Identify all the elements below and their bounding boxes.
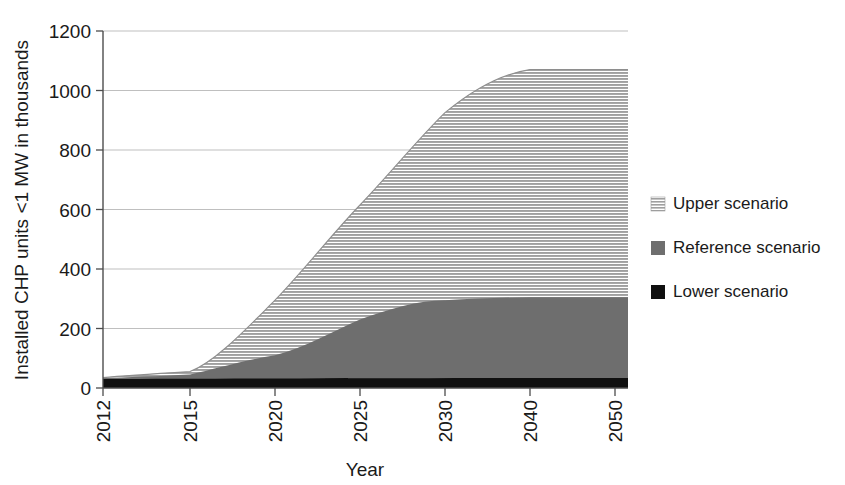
y-tick-labels: 1200 1000 800 600 400 200 0 [49, 21, 91, 399]
x-tick-labels: 2012 2015 2020 2025 2030 2040 2050 [93, 400, 626, 442]
x-tick-label: 2020 [265, 400, 286, 442]
x-axis-title: Year [346, 459, 385, 480]
area-chart-svg: 1200 1000 800 600 400 200 0 2012 2015 20… [0, 0, 845, 485]
legend-swatch-lower-scenario [651, 285, 665, 299]
x-tick-label: 2040 [520, 400, 541, 442]
y-tick-label: 1000 [49, 81, 91, 102]
x-tick-label: 2030 [435, 400, 456, 442]
x-tick-label: 2050 [605, 400, 626, 442]
y-tick-marks [96, 31, 103, 388]
y-tick-label: 400 [59, 259, 91, 280]
x-tick-label: 2025 [350, 400, 371, 442]
chart-figure: 1200 1000 800 600 400 200 0 2012 2015 20… [0, 0, 845, 485]
x-tick-marks [103, 388, 615, 396]
y-tick-label: 600 [59, 200, 91, 221]
y-axis-title: Installed CHP units <1 MW in thousands [11, 40, 32, 380]
legend-label-upper-scenario: Upper scenario [673, 194, 788, 213]
x-tick-label: 2015 [180, 400, 201, 442]
chart-legend: Upper scenario Reference scenario Lower … [651, 194, 820, 301]
series-area-lower-scenario [103, 378, 628, 388]
x-tick-label: 2012 [93, 400, 114, 442]
y-tick-label: 200 [59, 319, 91, 340]
y-tick-label: 1200 [49, 21, 91, 42]
y-tick-label: 0 [80, 378, 91, 399]
legend-label-lower-scenario: Lower scenario [673, 282, 788, 301]
legend-label-reference-scenario: Reference scenario [673, 238, 820, 257]
legend-swatch-upper-scenario [651, 197, 665, 211]
y-tick-label: 800 [59, 140, 91, 161]
legend-swatch-reference-scenario [651, 241, 665, 255]
